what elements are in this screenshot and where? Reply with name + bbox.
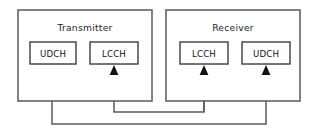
group-transmitter: Transmitter UDCH LCCH [18,10,152,101]
transmitter-lcch-label: LCCH [102,49,126,59]
group-receiver: Receiver LCCH UDCH [166,10,300,101]
receiver-lcch-label: LCCH [192,49,216,59]
transmitter-udch-label: UDCH [40,49,66,59]
channel-mapping-diagram: Transmitter UDCH LCCH Receiver LCCH UDCH [0,0,316,133]
receiver-udch-label: UDCH [253,49,279,59]
transmitter-title: Transmitter [56,22,112,33]
receiver-title: Receiver [212,22,254,33]
diagram-canvas: Transmitter UDCH LCCH Receiver LCCH UDCH [0,0,316,133]
